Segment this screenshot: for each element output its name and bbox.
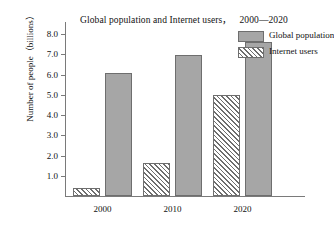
y-tick-mark — [61, 115, 66, 116]
x-axis-line — [65, 196, 305, 197]
bar-internet-users — [213, 95, 240, 196]
legend-label-internet-users: Internet users — [269, 46, 318, 56]
x-tick-label: 2000 — [73, 204, 132, 214]
y-tick-label: 3.0 — [47, 130, 58, 140]
bar-internet-users — [143, 163, 170, 196]
y-tick-label: 4.0 — [47, 110, 58, 120]
y-tick-label: 5.0 — [47, 90, 58, 100]
y-tick-label: 8.0 — [47, 29, 58, 39]
x-tick-label: 2020 — [213, 204, 272, 214]
y-tick-label: 7.0 — [47, 49, 58, 59]
y-axis-label: Number of people（billions） — [23, 0, 36, 142]
y-tick-mark — [61, 156, 66, 157]
bar-internet-users — [73, 188, 100, 196]
y-tick-label: 6.0 — [47, 70, 58, 80]
x-tick-label: 2010 — [143, 204, 202, 214]
legend-swatch-internet-users — [238, 47, 264, 58]
y-tick-mark — [61, 75, 66, 76]
y-tick-mark — [61, 34, 66, 35]
legend-item-global-population: Global population — [238, 30, 330, 42]
bar-global-population — [175, 55, 202, 196]
bar-group — [143, 22, 207, 196]
y-tick-label: 2.0 — [47, 151, 58, 161]
y-tick-mark — [61, 54, 66, 55]
y-tick-mark — [61, 176, 66, 177]
legend-item-internet-users: Internet users — [238, 46, 330, 58]
bar-global-population — [105, 73, 132, 196]
y-tick-mark — [61, 135, 66, 136]
legend-swatch-global-population — [238, 31, 264, 42]
y-tick-mark — [61, 95, 66, 96]
y-tick-label: 1.0 — [47, 171, 58, 181]
bar-global-population — [245, 42, 272, 196]
bar-group — [73, 22, 137, 196]
legend-label-global-population: Global population — [269, 30, 334, 40]
y-axis-line — [65, 22, 66, 197]
chart-legend: Global population Internet users — [238, 30, 330, 62]
